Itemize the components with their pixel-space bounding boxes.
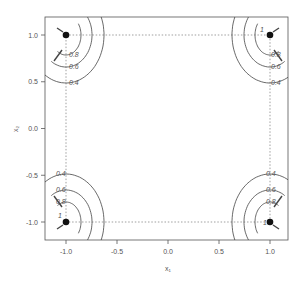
- contour-lines: [45, 8, 292, 249]
- contour-line-1: [57, 28, 63, 32]
- contour-line-0-4: [232, 174, 292, 249]
- contour-line-0-4: [232, 8, 292, 83]
- data-point: [63, 32, 70, 39]
- contour-label: 0.4: [271, 79, 281, 86]
- y-tick-label: 0.0: [28, 125, 38, 132]
- data-point: [267, 32, 274, 39]
- contour-label: 1: [58, 212, 62, 219]
- plot-area: -1.0-0.50.00.51.0-1.0-0.50.00.51.0x₁x₂0.…: [12, 8, 292, 272]
- contour-line-0-4: [45, 8, 105, 83]
- contour-label: 0.8: [266, 198, 276, 205]
- contour-label: 1: [260, 26, 264, 33]
- contour-line-0-4: [45, 174, 105, 249]
- contour-label: 0.8: [271, 51, 281, 58]
- x-axis-label: x₁: [165, 265, 172, 272]
- y-tick-label: 1.0: [28, 32, 38, 39]
- contour-line-1: [273, 28, 279, 32]
- y-axis-label: x₂: [12, 126, 19, 133]
- data-point: [267, 219, 274, 226]
- y-tick-label: -1.0: [26, 219, 38, 226]
- data-point: [63, 219, 70, 226]
- contour-label: 0.4: [266, 170, 276, 177]
- x-tick-label: -0.5: [111, 248, 123, 255]
- contour-line-0-6: [51, 17, 92, 67]
- contour-line-1: [273, 225, 279, 229]
- x-tick-label: -1.0: [60, 248, 72, 255]
- y-tick-label: 0.5: [28, 78, 38, 85]
- contour-line-0-6: [244, 17, 285, 67]
- contour-label: 0.6: [271, 63, 281, 70]
- contour-label: 0.8: [56, 198, 66, 205]
- contour-chart: -1.0-0.50.00.51.0-1.0-0.50.00.51.0x₁x₂0.…: [0, 0, 305, 285]
- contour-line-1: [57, 225, 63, 229]
- contour-label: 0.8: [69, 51, 79, 58]
- x-tick-label: 1.0: [265, 248, 275, 255]
- y-tick-label: -0.5: [26, 172, 38, 179]
- x-tick-label: 0.5: [214, 248, 224, 255]
- contour-label: 0.4: [56, 170, 66, 177]
- contour-label: 0.4: [69, 79, 79, 86]
- x-tick-label: 0.0: [163, 248, 173, 255]
- contour-label: 0.6: [69, 63, 79, 70]
- contour-label: 1: [263, 219, 267, 226]
- contour-label: 0.6: [266, 186, 276, 193]
- contour-line-0-6: [244, 190, 285, 240]
- contour-label: 0.6: [56, 186, 66, 193]
- plot-frame: [45, 17, 288, 240]
